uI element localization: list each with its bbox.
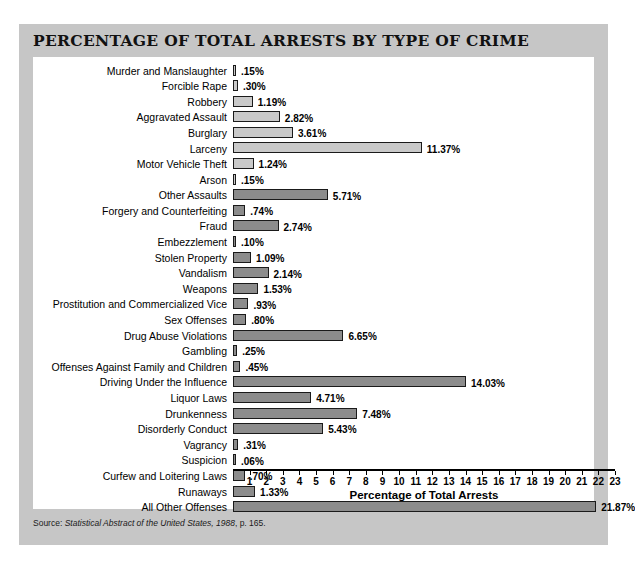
chart-plot-panel: Murder and Manslaughter.15%Forcible Rape… (33, 57, 594, 509)
x-axis-tick (615, 471, 616, 475)
x-axis-tick-label: 19 (543, 476, 554, 487)
x-axis-tick (449, 471, 450, 475)
bar-track: 1.19% (233, 94, 594, 110)
x-axis-tick (349, 471, 350, 475)
x-axis-tick-label: 1 (247, 476, 253, 487)
x-axis-tick (466, 471, 467, 475)
bar-row-label: Curfew and Loitering Laws (33, 471, 233, 482)
x-axis-tick-label: 6 (330, 476, 336, 487)
bar-row-label: Vagrancy (33, 440, 233, 451)
x-axis-tick (565, 471, 566, 475)
bar-row-label: Weapons (33, 284, 233, 295)
bar-value-label: .25% (242, 346, 265, 357)
x-axis-tick (266, 471, 267, 475)
x-axis-tick-label: 17 (510, 476, 521, 487)
bar-value-label: .31% (243, 440, 266, 451)
bar-track: 2.74% (233, 219, 594, 235)
bar-track: 14.03% (233, 375, 594, 391)
x-axis-tick (382, 471, 383, 475)
bar-track: .15% (233, 172, 594, 188)
bar-row: Stolen Property1.09% (33, 250, 594, 266)
x-axis: 1234567891011121314151617181920212223 Pe… (233, 469, 594, 509)
bar-row: Vandalism2.14% (33, 266, 594, 282)
bar-row-label: Disorderly Conduct (33, 424, 233, 435)
x-axis-tick-label: 20 (560, 476, 571, 487)
x-axis-tick-label: 22 (593, 476, 604, 487)
bar (233, 111, 280, 122)
x-axis-tick-label: 23 (609, 476, 620, 487)
bar-value-label: 7.48% (362, 408, 390, 419)
bar-row-label: Runaways (33, 487, 233, 498)
page-title: PERCENTAGE OF TOTAL ARRESTS BY TYPE OF C… (33, 31, 529, 50)
x-axis-tick-label: 5 (313, 476, 319, 487)
x-axis-tick-label: 13 (443, 476, 454, 487)
x-axis-tick (549, 471, 550, 475)
bar (233, 65, 236, 76)
x-axis-tick-label: 2 (263, 476, 269, 487)
x-axis-tick-label: 3 (280, 476, 286, 487)
x-axis-tick (582, 471, 583, 475)
bar (233, 127, 293, 138)
x-axis-tick-label: 10 (394, 476, 405, 487)
bar-value-label: 4.71% (316, 393, 344, 404)
x-axis-tick (499, 471, 500, 475)
x-axis-tick (482, 471, 483, 475)
source-note: Source: Statistical Abstract of the Unit… (33, 518, 266, 528)
x-axis-tick-label: 7 (346, 476, 352, 487)
bar-row: Embezzlement.10% (33, 235, 594, 251)
bar-row-label: Burglary (33, 128, 233, 139)
bar-row-label: Robbery (33, 97, 233, 108)
source-suffix: , p. 165. (235, 518, 266, 528)
bar-row: Aggravated Assault2.82% (33, 110, 594, 126)
bar (233, 283, 258, 294)
bar-row: Weapons1.53% (33, 281, 594, 297)
bar-row-label: Drunkenness (33, 409, 233, 420)
bar-value-label: 2.14% (274, 268, 302, 279)
bar-row: Forcible Rape.30% (33, 79, 594, 95)
bar-row: Vagrancy.31% (33, 437, 594, 453)
x-axis-tick (316, 471, 317, 475)
x-axis-tick-label: 8 (363, 476, 369, 487)
bar-track: .06% (233, 453, 594, 469)
bar-track: 7.48% (233, 406, 594, 422)
x-axis-tick-label: 11 (410, 476, 421, 487)
bar-row-label: Sex Offenses (33, 315, 233, 326)
bar-row-label: Other Assaults (33, 190, 233, 201)
bar-row-label: Vandalism (33, 268, 233, 279)
bar-row: Murder and Manslaughter.15% (33, 63, 594, 79)
source-prefix: Source: (33, 518, 65, 528)
bar-row-label: All Other Offenses (33, 502, 233, 513)
x-axis-tick-label: 15 (477, 476, 488, 487)
bar-row: Burglary3.61% (33, 125, 594, 141)
bar-row-label: Motor Vehicle Theft (33, 159, 233, 170)
chart-card: PERCENTAGE OF TOTAL ARRESTS BY TYPE OF C… (19, 24, 608, 545)
bar-row-label: Arson (33, 175, 233, 186)
bar-value-label: .74% (250, 206, 273, 217)
bar-row: Robbery1.19% (33, 94, 594, 110)
bar-track: 2.14% (233, 266, 594, 282)
bar-track: 5.43% (233, 422, 594, 438)
bar (233, 298, 248, 309)
bar (233, 205, 245, 216)
bar-row-label: Suspicion (33, 455, 233, 466)
bar-value-label: .93% (253, 299, 276, 310)
bar-track: .45% (233, 359, 594, 375)
x-axis-title: Percentage of Total Arrests (233, 489, 615, 501)
bar-value-label: .15% (241, 65, 264, 76)
bar-row-label: Gambling (33, 346, 233, 357)
bar-row: Forgery and Counterfeiting.74% (33, 203, 594, 219)
bar-row: Gambling.25% (33, 344, 594, 360)
bar-row: Prostitution and Commercialized Vice.93% (33, 297, 594, 313)
x-axis-tick-label: 9 (380, 476, 386, 487)
x-axis-tick-label: 12 (427, 476, 438, 487)
x-axis-tick (532, 471, 533, 475)
bar-row-label: Driving Under the Influence (33, 377, 233, 388)
bar-track: .31% (233, 437, 594, 453)
bar-row-label: Murder and Manslaughter (33, 66, 233, 77)
bar-value-label: 6.65% (348, 330, 376, 341)
x-axis-tick (399, 471, 400, 475)
bar-track: .10% (233, 235, 594, 251)
bar-track: .93% (233, 297, 594, 313)
bar-track: 1.24% (233, 157, 594, 173)
